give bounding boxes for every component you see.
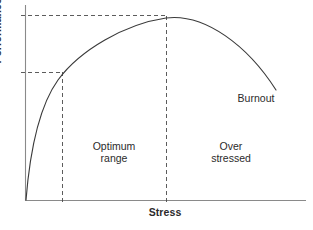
performance-curve — [26, 17, 276, 200]
y-axis-title: Performance — [0, 0, 4, 74]
over-stressed-label: Over stressed — [189, 141, 273, 165]
chart-canvas — [0, 0, 313, 230]
stress-performance-chart: Performance Stress Optimum range Over st… — [0, 0, 313, 230]
optimum-range-label: Optimum range — [72, 141, 156, 165]
burnout-label: Burnout — [220, 93, 292, 105]
x-axis-title: Stress — [130, 207, 200, 219]
